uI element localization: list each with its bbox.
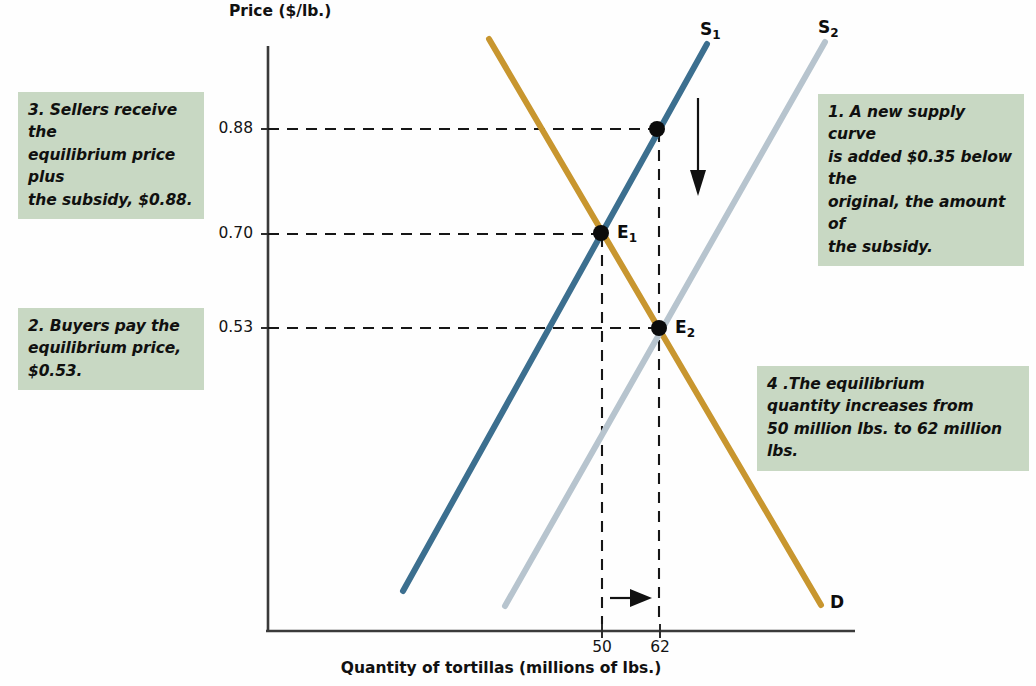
point-label-e1-sub: 1 — [629, 231, 637, 245]
point-label-e1: E1 — [617, 222, 637, 245]
curve-label-s1-text: S — [700, 19, 712, 39]
point-seller-price-088 — [649, 121, 665, 137]
point-label-e1-text: E — [617, 222, 629, 242]
y-tick-label-053: 0.53 — [199, 318, 253, 336]
curve-label-s2: S2 — [818, 17, 839, 40]
callout-buyers-pay: 2. Buyers pay the equilibrium price, $0.… — [18, 308, 204, 390]
point-label-e2-text: E — [675, 317, 687, 337]
callout-new-supply-curve: 1. A new supply curve is added $0.35 bel… — [818, 94, 1024, 266]
y-tick-label-070: 0.70 — [199, 224, 253, 242]
curve-label-s1: S1 — [700, 19, 721, 42]
curve-label-d: D — [830, 592, 844, 612]
callout-equilibrium-quantity: 4 .The equilibrium quantity increases fr… — [757, 366, 1029, 471]
chart-canvas: Price ($/lb.) Quantity of tortillas (mil… — [0, 0, 1036, 686]
y-axis-title: Price ($/lb.) — [229, 2, 331, 20]
arrow-right-icon — [610, 589, 652, 607]
curve-label-s2-sub: 2 — [830, 26, 838, 40]
curve-label-s1-sub: 1 — [712, 28, 720, 42]
y-tick-label-088: 0.88 — [199, 119, 253, 137]
point-label-e2-sub: 2 — [687, 326, 695, 340]
point-label-e2: E2 — [675, 317, 695, 340]
point-e2 — [651, 320, 667, 336]
callout-sellers-receive: 3. Sellers receive the equilibrium price… — [18, 92, 204, 219]
arrow-down-icon — [690, 98, 706, 196]
point-e1 — [593, 225, 609, 241]
curve-label-s2-text: S — [818, 17, 830, 37]
x-tick-label-62: 62 — [640, 638, 680, 656]
x-axis-title: Quantity of tortillas (millions of lbs.) — [271, 659, 731, 677]
x-tick-label-50: 50 — [582, 638, 622, 656]
